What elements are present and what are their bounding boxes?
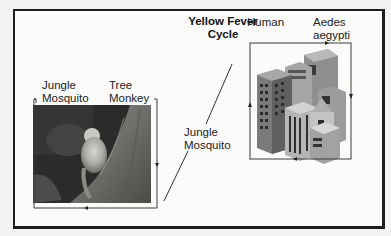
arrow-down-icon <box>349 94 353 99</box>
tree-monkey-photo <box>33 105 151 203</box>
city-buildings-illustration <box>257 49 346 164</box>
arrow-left-icon <box>84 206 88 210</box>
diagram-graphics <box>0 0 391 236</box>
arrow-down-icon <box>155 163 159 167</box>
arrow-right-icon <box>325 41 329 45</box>
bridge-connector <box>164 64 232 201</box>
arrow-up-icon <box>248 102 252 107</box>
